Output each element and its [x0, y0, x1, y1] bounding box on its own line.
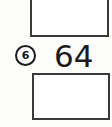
answer-box-top[interactable] — [30, 0, 109, 37]
circled-number-icon: 6 — [15, 45, 36, 66]
answer-box-bottom[interactable] — [32, 73, 110, 120]
numeric-value: 64 — [54, 36, 93, 76]
circled-number-label: 6 — [22, 50, 30, 61]
worksheet-page: 6 64 — [0, 0, 112, 127]
value-row: 6 64 — [0, 41, 112, 72]
